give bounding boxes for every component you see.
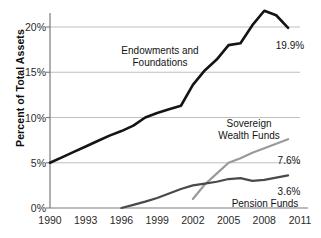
y-tick-label-5%: 5% <box>12 158 46 168</box>
y-tick-label-20%: 20% <box>12 22 46 32</box>
y-tick-label-10%: 10% <box>12 113 46 123</box>
x-tick-label-1999: 1999 <box>137 214 177 226</box>
x-tick-label-1993: 1993 <box>66 214 106 226</box>
pension-label: Pension Funds <box>205 198 321 210</box>
endowments-label: Endowments and Foundations <box>100 45 220 68</box>
x-tick-label-1996: 1996 <box>101 214 141 226</box>
y-axis-tick-labels: 0%5%10%15%20% <box>6 0 46 238</box>
x-tick-label-2008: 2008 <box>244 214 284 226</box>
swf-value: 7.6% <box>229 155 321 167</box>
endowments-value: 19.9% <box>230 40 321 52</box>
x-tick-label-2002: 2002 <box>173 214 213 226</box>
y-tick-label-15%: 15% <box>12 67 46 77</box>
x-axis-tick-labels: 19901993199619992002200520082011 <box>0 214 321 230</box>
y-tick-label-0%: 0% <box>12 203 46 213</box>
x-tick-label-2011: 2011 <box>280 214 320 226</box>
swf-label: Sovereign Wealth Funds <box>189 118 309 141</box>
x-tick-label-1990: 1990 <box>30 214 70 226</box>
chart-container: Percent of Total Assets 0%5%10%15%20% 19… <box>0 0 321 238</box>
pension-value: 3.6% <box>229 186 321 198</box>
x-tick-label-2005: 2005 <box>209 214 249 226</box>
